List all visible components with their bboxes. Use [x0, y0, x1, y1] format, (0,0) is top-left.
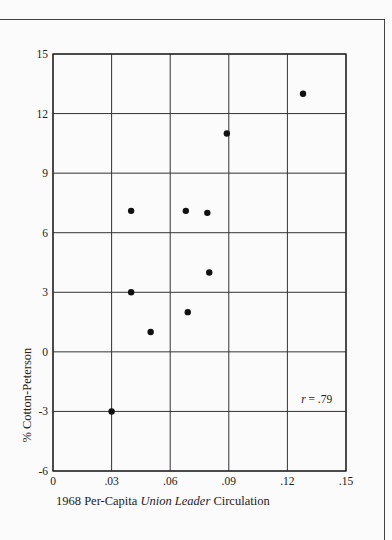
data-point — [206, 269, 212, 275]
y-tick-label: -6 — [38, 465, 48, 477]
y-tick-label: 9 — [42, 167, 48, 179]
y-tick-label: 6 — [42, 227, 48, 239]
x-tick-label: .06 — [163, 475, 178, 487]
data-point — [183, 208, 189, 214]
y-tick-label: 12 — [37, 108, 49, 120]
x-tick-label: .15 — [339, 475, 354, 487]
y-tick-label: 0 — [42, 346, 48, 358]
y-tick-label: 3 — [42, 286, 48, 298]
y-tick-label: -3 — [38, 405, 48, 417]
data-point — [128, 289, 134, 295]
data-point — [204, 210, 210, 216]
data-points — [108, 91, 306, 415]
correlation-annotation: r = .79 — [301, 393, 332, 405]
data-point — [185, 309, 191, 315]
data-point — [224, 130, 230, 136]
grid-lines — [53, 54, 346, 471]
plot-area — [53, 54, 346, 471]
x-axis-ticks: 0.03.06.09.12.15 — [50, 475, 353, 487]
data-point — [128, 208, 134, 214]
y-axis-ticks: 15129630-3-6 — [37, 48, 49, 477]
x-tick-label: 0 — [50, 475, 56, 487]
x-tick-label: .03 — [104, 475, 119, 487]
data-point — [147, 329, 153, 335]
data-point — [108, 408, 114, 414]
data-point — [300, 91, 306, 97]
x-axis-label: 1968 Per-Capita Union Leader Circulation — [56, 494, 270, 508]
x-tick-label: .09 — [222, 475, 237, 487]
y-axis-label: % Cotton-Peterson — [20, 347, 34, 443]
x-tick-label: .12 — [280, 475, 295, 487]
y-tick-label: 15 — [37, 48, 49, 60]
